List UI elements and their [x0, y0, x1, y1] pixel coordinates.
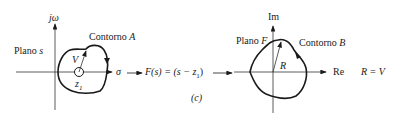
relation-label: R = V: [361, 67, 385, 77]
sigma-axis-label: σ: [116, 67, 121, 77]
contour-a-direction-arrow: [104, 58, 110, 64]
vector-v-label: V: [72, 55, 78, 65]
contour-b: [250, 39, 307, 98]
plane-s-label: Plano s: [14, 46, 43, 56]
diagram-canvas: [0, 0, 395, 122]
jw-axis-label: jω: [49, 13, 59, 23]
mapping-function: F(s) = (s − z1): [145, 67, 203, 80]
re-axis-label: Re: [333, 67, 344, 77]
zero-label: z1: [75, 79, 82, 92]
contour-a-label: Contorno A: [89, 32, 135, 42]
contour-b-label: Contorno B: [299, 38, 345, 48]
panel-label: (c): [191, 93, 202, 103]
im-axis-label: Im: [268, 12, 279, 22]
plane-f-label: Plano F: [236, 36, 267, 46]
vector-r-label: R: [280, 61, 286, 71]
